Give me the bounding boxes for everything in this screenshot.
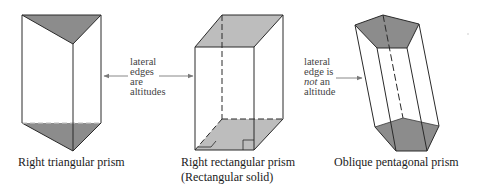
right-triangular-prism (22, 15, 101, 151)
rectangular-top-face (195, 15, 283, 47)
note-line: altitude (304, 87, 336, 97)
caption-right-rectangular-prism: Right rectangular prism (181, 155, 295, 170)
pentagonal-top-face (355, 15, 419, 48)
caption-rectangular-solid: (Rectangular solid) (181, 170, 273, 185)
note-line: altitudes (130, 87, 166, 97)
caption-right-triangular-prism: Right triangular prism (18, 155, 125, 170)
oblique-pentagonal-prism (355, 15, 439, 151)
triangular-top-face (22, 15, 101, 44)
note-lateral-edge-is-not-an-altitude: lateral edge is not an altitude (304, 57, 336, 97)
caption-oblique-pentagonal-prism: Oblique pentagonal prism (334, 155, 459, 170)
note-lateral-edges-are-altitudes: lateral edges are altitudes (130, 57, 166, 97)
triangular-bottom-face (22, 123, 101, 151)
right-rectangular-prism (195, 15, 283, 150)
